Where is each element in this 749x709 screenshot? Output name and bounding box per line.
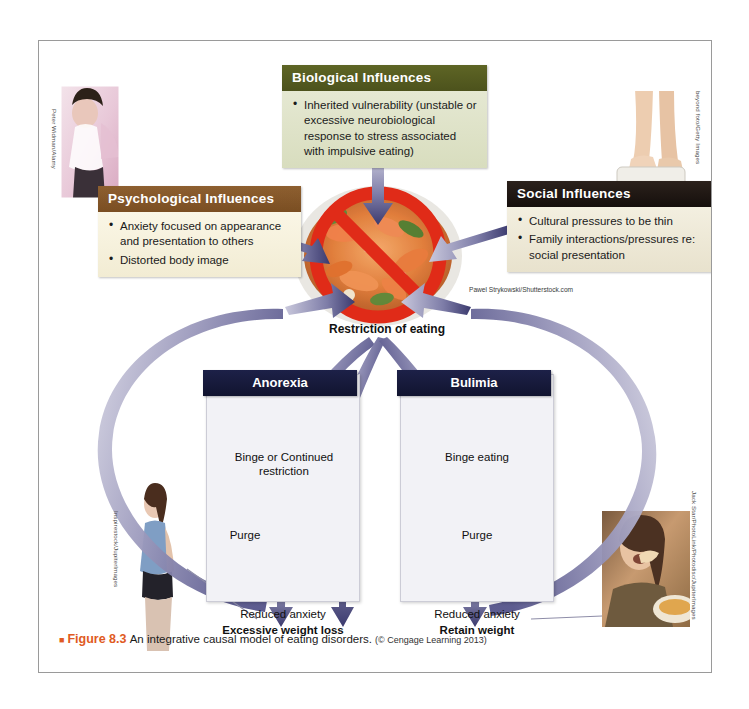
panel-bulimia: Bulimia Binge eating Purge Reduced anxie… (400, 374, 554, 602)
box-biological-bullet-0: Inherited vulnerability (unstable or exc… (304, 98, 478, 159)
panel-bulimia-step-2: Reduced anxiety (401, 608, 553, 622)
box-social-body: Cultural pressures to be thin Family int… (507, 207, 712, 272)
figure-number: Figure 8.3 (67, 632, 126, 646)
panel-bulimia-title: Bulimia (397, 370, 551, 396)
panel-anorexia-step-2: Reduced anxiety (207, 608, 359, 622)
panel-bulimia-step-1: Purge (401, 529, 553, 543)
panel-anorexia-step-1: Purge (169, 529, 321, 543)
box-biological-influences: Biological Influences Inherited vulnerab… (282, 65, 487, 168)
box-psychological-bullet-0: Anxiety focused on appearance and presen… (120, 219, 292, 250)
box-social-title: Social Influences (507, 181, 712, 207)
box-psychological-body: Anxiety focused on appearance and presen… (98, 212, 301, 277)
figure-caption-body: An integrative causal model of eating di… (130, 633, 372, 645)
restriction-of-eating-label: Restriction of eating (297, 322, 477, 336)
box-biological-body: Inherited vulnerability (unstable or exc… (282, 91, 487, 168)
panel-bulimia-step-0: Binge eating (401, 451, 553, 465)
photo-credit-right-bottom: Jack Star/PhotoLink/Photodisc/JupiterIma… (691, 491, 698, 620)
photo-credit-left-bottom: Inspirestock/JupiterImages (113, 511, 120, 587)
photo-woman-eating (602, 511, 697, 627)
photo-credit-left-top: Peter Widman/Alamy (51, 109, 58, 169)
panel-anorexia: Anorexia Binge or Continued restriction … (206, 374, 360, 602)
photo-credit-right-top: beyond foto/Getty Images (695, 91, 702, 164)
arrow-loop-right-into-center (401, 283, 471, 318)
panel-anorexia-step-0: Binge or Continued restriction (207, 451, 361, 479)
arrow-loop-left-into-center (285, 283, 355, 318)
box-psychological-influences: Psychological Influences Anxiety focused… (98, 186, 301, 277)
photo-food-plate (294, 186, 462, 326)
box-social-bullet-0: Cultural pressures to be thin (529, 214, 704, 229)
photo-thin-woman (123, 481, 187, 651)
box-social-bullet-1: Family interactions/pressures re: social… (529, 232, 704, 263)
box-biological-title: Biological Influences (282, 65, 487, 91)
panel-anorexia-title: Anorexia (203, 370, 357, 396)
box-psychological-bullet-1: Distorted body image (120, 253, 292, 268)
box-social-influences: Social Influences Cultural pressures to … (507, 181, 712, 272)
arrow-social-to-center (429, 225, 509, 262)
figure-copyright: (© Cengage Learning 2013) (375, 635, 487, 645)
photo-credit-food: Pawel Strykowski/Shutterstock.com (469, 286, 573, 293)
box-psychological-title: Psychological Influences (98, 186, 301, 212)
figure-frame: Biological Influences Inherited vulnerab… (38, 40, 712, 673)
photo-woman-pink (61, 86, 119, 198)
prohibition-sign (316, 193, 440, 317)
caption-marker-icon: ■ (59, 635, 64, 645)
figure-caption: ■Figure 8.3 An integrative causal model … (59, 632, 699, 646)
